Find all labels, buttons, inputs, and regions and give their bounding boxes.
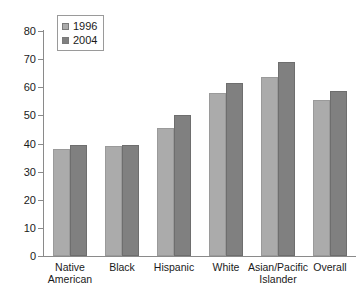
y-axis-tick	[38, 200, 43, 201]
y-axis-tick	[38, 256, 43, 257]
legend-label-2004: 2004	[73, 35, 97, 46]
y-axis-tick	[38, 172, 43, 173]
bar-group	[252, 31, 304, 256]
y-axis-tick-label: 50	[0, 110, 36, 121]
y-axis-tick-label: 40	[0, 138, 36, 149]
bar-2004	[278, 62, 295, 256]
chart-legend: 1996 2004	[57, 15, 104, 51]
bar-group	[304, 31, 356, 256]
y-axis-tick-label: 0	[0, 251, 36, 262]
bar-group	[96, 31, 148, 256]
bar-2004	[226, 83, 243, 256]
y-axis-tick	[38, 115, 43, 116]
y-axis-tick	[38, 31, 43, 32]
bar-2004	[122, 145, 139, 256]
bar-1996	[157, 128, 174, 256]
y-axis-tick-label: 70	[0, 54, 36, 65]
legend-swatch-icon-2004	[62, 37, 69, 44]
y-axis-tick-label: 10	[0, 222, 36, 233]
bar-2004	[330, 91, 347, 256]
legend-swatch-icon-1996	[62, 23, 69, 30]
bar-1996	[261, 77, 278, 256]
y-axis-tick	[38, 59, 43, 60]
bar-group	[44, 31, 96, 256]
y-axis-tick	[38, 144, 43, 145]
y-axis-tick	[38, 87, 43, 88]
bar-2004	[174, 115, 191, 256]
bar-group	[200, 31, 252, 256]
bar-1996	[209, 93, 226, 256]
y-axis-tick-label: 80	[0, 26, 36, 37]
y-axis-tick-label: 30	[0, 166, 36, 177]
y-axis-tick-label: 60	[0, 82, 36, 93]
legend-label-1996: 1996	[73, 21, 97, 32]
y-axis-tick	[38, 228, 43, 229]
plot-area	[44, 31, 356, 256]
y-axis-tick-label: 20	[0, 194, 36, 205]
bar-1996	[313, 100, 330, 256]
bar-chart: 01020304050607080 Native AmericanBlackHi…	[0, 0, 362, 303]
bar-1996	[53, 149, 70, 256]
legend-item-2004: 2004	[62, 33, 97, 47]
bar-group	[148, 31, 200, 256]
legend-item-1996: 1996	[62, 19, 97, 33]
bar-2004	[70, 145, 87, 256]
bar-1996	[105, 146, 122, 256]
x-axis-line	[43, 256, 356, 257]
x-axis-category-label: Overall	[285, 261, 362, 273]
